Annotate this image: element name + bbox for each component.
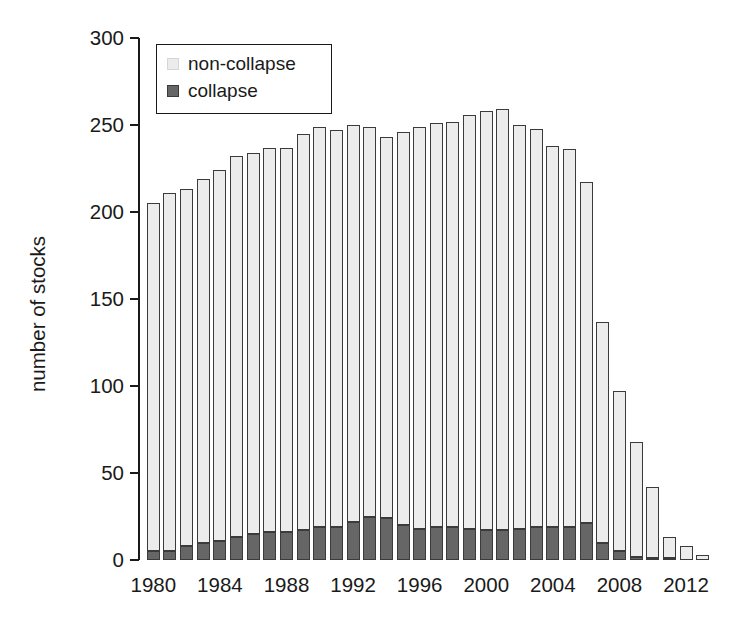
bar-2004	[546, 146, 559, 560]
bar-1995	[397, 132, 410, 560]
y-axis-tick-label: 250	[0, 115, 124, 136]
bar-segment-non-collapse	[630, 442, 643, 557]
bar-segment-non-collapse	[430, 123, 443, 527]
bar-2001	[496, 109, 509, 560]
bar-segment-collapse	[297, 530, 310, 560]
bar-1989	[297, 134, 310, 560]
bar-segment-non-collapse	[313, 127, 326, 527]
y-axis-tick	[130, 37, 139, 39]
bar-1986	[247, 153, 260, 560]
bar-segment-non-collapse	[347, 125, 360, 522]
y-axis-tick-label: 200	[0, 202, 124, 223]
y-axis-tick	[130, 211, 139, 213]
bar-1988	[280, 148, 293, 560]
bar-2010	[646, 487, 659, 560]
bar-2013	[696, 555, 709, 560]
y-axis-tick-label: 300	[0, 28, 124, 49]
bar-1996	[413, 127, 426, 560]
bar-segment-collapse	[247, 534, 260, 560]
bar-2009	[630, 442, 643, 560]
y-axis-tick-label: 50	[0, 463, 124, 484]
x-axis-tick-label: 2004	[530, 574, 576, 595]
bar-1987	[263, 148, 276, 560]
bar-segment-non-collapse	[546, 146, 559, 527]
bar-segment-collapse	[446, 527, 459, 560]
bar-segment-collapse	[663, 558, 676, 560]
bar-segment-collapse	[513, 529, 526, 560]
bar-segment-non-collapse	[180, 189, 193, 546]
bar-1990	[313, 127, 326, 560]
bar-1992	[347, 125, 360, 560]
bar-segment-collapse	[213, 541, 226, 560]
bar-segment-collapse	[147, 551, 160, 560]
y-axis-tick	[130, 298, 139, 300]
bar-segment-collapse	[263, 532, 276, 560]
bar-segment-non-collapse	[330, 130, 343, 527]
bar-2012	[680, 546, 693, 560]
bar-2002	[513, 125, 526, 560]
bar-segment-collapse	[430, 527, 443, 560]
chart-legend: non-collapse collapse	[156, 44, 332, 114]
y-axis-tick	[130, 559, 139, 561]
legend-item-non-collapse: non-collapse	[167, 54, 296, 73]
y-axis-tick	[130, 124, 139, 126]
bar-segment-collapse	[413, 529, 426, 560]
bar-1999	[463, 115, 476, 560]
bar-segment-collapse	[163, 551, 176, 560]
bar-segment-non-collapse	[680, 546, 693, 560]
y-axis-tick-label: 100	[0, 376, 124, 397]
bar-segment-non-collapse	[363, 127, 376, 517]
bar-1994	[380, 137, 393, 560]
bar-segment-collapse	[313, 527, 326, 560]
bar-segment-collapse	[463, 529, 476, 560]
bar-segment-non-collapse	[496, 109, 509, 530]
bar-segment-collapse	[380, 518, 393, 560]
bar-segment-collapse	[630, 557, 643, 560]
stacked-bar-chart-figure: 050100150200250300 198019841988199219962…	[0, 0, 729, 628]
bar-2008	[613, 391, 626, 560]
x-axis-tick-label: 1992	[330, 574, 376, 595]
bar-segment-non-collapse	[197, 179, 210, 543]
x-axis-tick-label: 1980	[131, 574, 177, 595]
bar-1993	[363, 127, 376, 560]
bar-segment-collapse	[563, 527, 576, 560]
y-axis-tick	[130, 385, 139, 387]
bar-segment-non-collapse	[646, 487, 659, 558]
bar-segment-non-collapse	[580, 182, 593, 523]
bar-segment-collapse	[496, 530, 509, 560]
x-axis-tick-label: 2008	[597, 574, 643, 595]
bar-segment-non-collapse	[480, 111, 493, 530]
bar-segment-non-collapse	[230, 156, 243, 537]
y-axis-tick	[130, 472, 139, 474]
y-axis-tick-label: 150	[0, 289, 124, 310]
bar-segment-non-collapse	[596, 322, 609, 543]
bar-segment-non-collapse	[530, 129, 543, 527]
bar-2000	[480, 111, 493, 560]
bar-segment-non-collapse	[446, 122, 459, 527]
bar-segment-collapse	[397, 525, 410, 560]
bar-segment-collapse	[480, 530, 493, 560]
bar-segment-collapse	[613, 551, 626, 560]
bar-segment-collapse	[230, 537, 243, 560]
x-axis-tick-label: 1996	[397, 574, 443, 595]
bar-segment-non-collapse	[563, 149, 576, 527]
y-axis-title: number of stocks	[26, 184, 50, 444]
bar-segment-non-collapse	[413, 127, 426, 529]
legend-swatch-non-collapse-icon	[167, 58, 179, 70]
x-axis-tick-label: 1984	[197, 574, 243, 595]
bar-1980	[147, 203, 160, 560]
bar-segment-collapse	[596, 543, 609, 560]
bar-2006	[580, 182, 593, 560]
bar-segment-non-collapse	[463, 115, 476, 529]
bar-segment-non-collapse	[163, 193, 176, 551]
bar-2005	[563, 149, 576, 560]
bar-1981	[163, 193, 176, 560]
legend-label-collapse: collapse	[188, 81, 258, 100]
bar-segment-collapse	[330, 527, 343, 560]
x-axis-tick-label: 2012	[663, 574, 709, 595]
bar-segment-non-collapse	[513, 125, 526, 529]
x-axis-tick-label: 1988	[264, 574, 310, 595]
bar-1983	[197, 179, 210, 560]
bar-segment-collapse	[180, 546, 193, 560]
bar-segment-non-collapse	[613, 391, 626, 551]
